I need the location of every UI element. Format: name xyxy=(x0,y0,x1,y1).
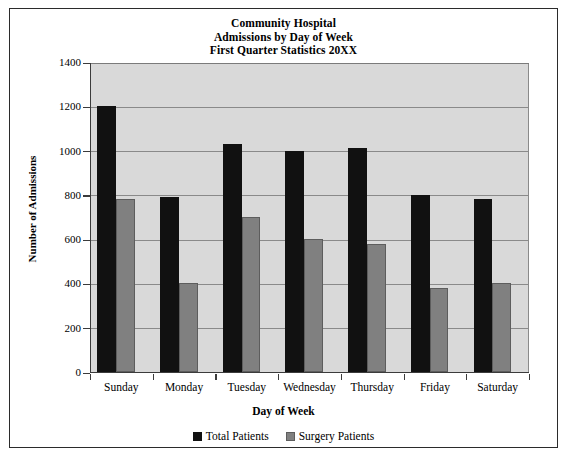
x-tick-3 xyxy=(278,374,279,380)
y-tick-mark-0 xyxy=(83,373,90,374)
bar-thursday-surgery-patients xyxy=(367,244,386,372)
bar-group-sunday xyxy=(91,63,154,372)
x-tick-6 xyxy=(466,374,467,380)
bar-friday-surgery-patients xyxy=(430,288,449,372)
x-tick-5 xyxy=(404,374,405,380)
legend-swatch-surgery-patients xyxy=(286,432,295,441)
y-tick-600: 600 xyxy=(10,233,90,247)
bar-group-friday xyxy=(405,63,468,372)
legend-label-surgery-patients: Surgery Patients xyxy=(299,430,375,442)
bar-friday-total-patients xyxy=(411,195,430,372)
bar-thursday-total-patients xyxy=(348,148,367,372)
y-tick-mark-1400 xyxy=(83,63,90,64)
x-tick-4 xyxy=(341,374,342,380)
bar-sunday-surgery-patients xyxy=(116,199,135,372)
x-tick-end xyxy=(529,374,530,380)
chart-title-line-2: Admissions by Day of Week xyxy=(10,31,557,45)
bar-tuesday-total-patients xyxy=(223,144,242,372)
y-tick-mark-200 xyxy=(83,328,90,329)
chart-title-line-1: Community Hospital xyxy=(10,17,557,31)
y-tick-1200: 1200 xyxy=(10,100,90,114)
y-tick-mark-1200 xyxy=(83,107,90,108)
bar-group-monday xyxy=(154,63,217,372)
plot-area xyxy=(90,63,529,373)
bar-monday-total-patients xyxy=(160,197,179,372)
y-tick-200: 200 xyxy=(10,322,90,336)
bar-tuesday-surgery-patients xyxy=(242,217,261,372)
legend-item-surgery-patients: Surgery Patients xyxy=(286,430,375,442)
y-tick-1400: 1400 xyxy=(10,56,90,70)
x-tick-2 xyxy=(215,374,216,380)
y-tick-800: 800 xyxy=(10,189,90,203)
y-tick-0: 0 xyxy=(10,366,90,380)
y-tick-400: 400 xyxy=(10,277,90,291)
x-axis-label-thursday: Thursday xyxy=(341,381,404,393)
bar-wednesday-total-patients xyxy=(285,151,304,372)
x-tick-0 xyxy=(90,374,91,380)
x-axis-label: Day of Week xyxy=(10,405,557,417)
x-tick-1 xyxy=(153,374,154,380)
x-axis-label-tuesday: Tuesday xyxy=(215,381,278,393)
legend-swatch-total-patients xyxy=(193,432,202,441)
legend-label-total-patients: Total Patients xyxy=(206,430,269,442)
bar-group-wednesday xyxy=(279,63,342,372)
y-tick-mark-800 xyxy=(83,195,90,196)
bar-sunday-total-patients xyxy=(97,106,116,372)
chart-legend: Total Patients Surgery Patients xyxy=(10,430,557,442)
bar-saturday-surgery-patients xyxy=(492,283,511,372)
bar-group-thursday xyxy=(342,63,405,372)
y-tick-1000: 1000 xyxy=(10,145,90,159)
chart-title-line-3: First Quarter Statistics 20XX xyxy=(10,44,557,58)
y-tick-mark-1000 xyxy=(83,151,90,152)
bar-group-saturday xyxy=(467,63,530,372)
x-axis-label-friday: Friday xyxy=(404,381,467,393)
legend-item-total-patients: Total Patients xyxy=(193,430,269,442)
bar-group-tuesday xyxy=(216,63,279,372)
x-axis-label-wednesday: Wednesday xyxy=(278,381,341,393)
chart-title: Community Hospital Admissions by Day of … xyxy=(10,17,557,58)
x-axis-label-monday: Monday xyxy=(153,381,216,393)
chart-figure: Community Hospital Admissions by Day of … xyxy=(9,8,558,448)
bar-saturday-total-patients xyxy=(474,199,493,372)
bar-monday-surgery-patients xyxy=(179,283,198,372)
y-tick-mark-600 xyxy=(83,240,90,241)
y-tick-mark-400 xyxy=(83,284,90,285)
x-axis-label-sunday: Sunday xyxy=(90,381,153,393)
bar-wednesday-surgery-patients xyxy=(304,239,323,372)
x-axis-label-saturday: Saturday xyxy=(466,381,529,393)
y-axis: Number of Admissions 0200400600800100012… xyxy=(10,63,90,375)
x-axis: SundayMondayTuesdayWednesdayThursdayFrid… xyxy=(90,374,529,402)
